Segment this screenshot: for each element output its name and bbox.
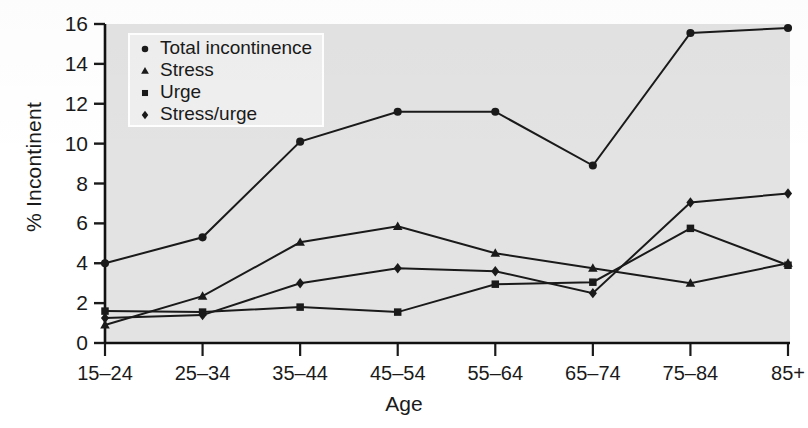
y-axis-ticks: 0246810121416 <box>65 12 105 354</box>
data-point-square <box>296 303 303 310</box>
x-tick-label: 85+ <box>771 362 805 384</box>
y-tick-label: 0 <box>76 331 88 354</box>
y-tick-label: 2 <box>76 291 88 314</box>
data-point-circle <box>784 24 792 32</box>
legend-label: Urge <box>160 81 201 102</box>
data-point-circle <box>199 233 207 241</box>
y-tick-label: 6 <box>76 211 88 234</box>
x-tick-label: 75–84 <box>663 362 719 384</box>
legend-marker-circle-icon <box>142 46 149 53</box>
x-tick-label: 25–34 <box>175 362 231 384</box>
y-tick-label: 8 <box>76 172 88 195</box>
legend-label: Total incontinence <box>160 37 312 58</box>
data-point-circle <box>296 138 304 146</box>
data-point-square <box>784 261 791 268</box>
y-tick-label: 4 <box>76 251 88 274</box>
x-tick-label: 35–44 <box>272 362 328 384</box>
legend-label: Stress <box>160 59 214 80</box>
legend-marker-square-icon <box>142 90 148 96</box>
data-point-square <box>394 308 401 315</box>
legend-label: Stress/urge <box>160 103 257 124</box>
x-tick-label: 65–74 <box>565 362 621 384</box>
chart-legend: Total incontinenceStressUrgeStress/urge <box>129 34 323 126</box>
data-point-circle <box>101 259 109 267</box>
data-point-circle <box>491 108 499 116</box>
y-tick-label: 16 <box>65 12 88 35</box>
x-tick-label: 55–64 <box>467 362 523 384</box>
data-point-circle <box>589 162 597 170</box>
data-point-circle <box>394 108 402 116</box>
data-point-square <box>492 280 499 287</box>
y-tick-label: 14 <box>65 52 89 75</box>
x-tick-label: 15–24 <box>77 362 133 384</box>
y-tick-label: 10 <box>65 132 88 155</box>
incontinence-prevalence-figure: % Incontinent Age 0246810121416 15–2425–… <box>0 0 808 428</box>
chart-canvas: 0246810121416 15–2425–3435–4445–5455–646… <box>0 0 808 428</box>
y-tick-label: 12 <box>65 92 88 115</box>
data-point-square <box>687 225 694 232</box>
data-point-circle <box>686 29 694 37</box>
x-axis-ticks: 15–2425–3435–4445–5455–6465–7475–8485+ <box>77 343 805 384</box>
x-tick-label: 45–54 <box>370 362 426 384</box>
data-point-square <box>589 278 596 285</box>
